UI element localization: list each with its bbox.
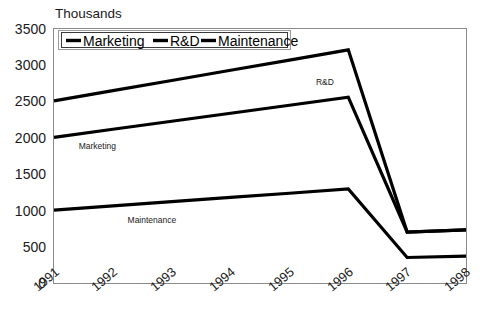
y-tick-label: 1500 (15, 166, 46, 182)
chart-legend: Marketing R&D Maintenance (59, 31, 299, 50)
legend-label-maintenance[interactable]: Maintenance (218, 33, 298, 49)
y-tick-label: 3500 (15, 21, 46, 37)
y-tick-label: 500 (23, 239, 47, 255)
legend-label-marketing[interactable]: Marketing (83, 33, 144, 49)
y-tick-label: 2000 (15, 130, 46, 146)
y-tick-label: 2500 (15, 93, 46, 109)
line-chart: Thousands 3500 3000 2500 2000 1500 1000 … (0, 0, 497, 317)
series-annotation-marketing: Marketing (79, 141, 117, 151)
y-tick-label: 1000 (15, 203, 46, 219)
chart-canvas: Thousands 3500 3000 2500 2000 1500 1000 … (0, 0, 497, 317)
series-annotation-rd: R&D (316, 77, 334, 87)
series-annotation-maintenance: Maintenance (128, 215, 177, 225)
y-tick-label: 3000 (15, 57, 46, 73)
unit-label: Thousands (55, 6, 122, 21)
legend-label-rd[interactable]: R&D (170, 33, 200, 49)
